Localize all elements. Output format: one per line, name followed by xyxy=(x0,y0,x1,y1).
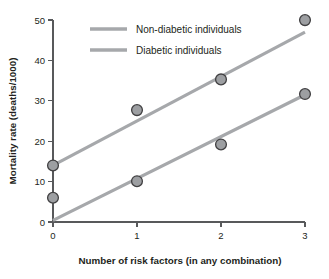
y-tick-label-30: 30 xyxy=(34,95,45,106)
x-tick-label-3: 3 xyxy=(302,230,307,241)
data-point-diabetic-2 xyxy=(216,139,227,150)
chart-legend: Non-diabetic individuals Diabetic indivi… xyxy=(90,24,242,56)
trend-line-diabetic xyxy=(53,95,305,221)
x-tick-label-1: 1 xyxy=(134,230,139,241)
legend-label-diabetic: Diabetic individuals xyxy=(136,45,222,56)
y-tick-label-0: 0 xyxy=(40,217,45,228)
y-axis-title: Mortality rate (deaths/1000) xyxy=(7,58,18,185)
y-tick-label-40: 40 xyxy=(34,55,45,66)
data-point-non-diabetic-3 xyxy=(300,15,311,26)
data-point-non-diabetic-0 xyxy=(48,160,59,171)
x-axis-title: Number of risk factors (in any combinati… xyxy=(78,255,281,266)
x-tick-label-0: 0 xyxy=(50,230,55,241)
data-point-non-diabetic-1 xyxy=(132,105,143,116)
data-point-non-diabetic-2 xyxy=(216,74,227,85)
chart-figure: 50 40 30 20 10 0 0 1 2 3 Number of risk … xyxy=(0,0,329,279)
data-point-diabetic-0 xyxy=(48,192,59,203)
legend-label-non-diabetic: Non-diabetic individuals xyxy=(136,24,242,35)
y-tick-label-50: 50 xyxy=(34,15,45,26)
data-point-diabetic-3 xyxy=(300,89,311,100)
data-point-diabetic-1 xyxy=(132,176,143,187)
y-tick-label-10: 10 xyxy=(34,176,45,187)
x-tick-label-2: 2 xyxy=(218,230,223,241)
y-tick-label-20: 20 xyxy=(34,136,45,147)
mortality-risk-factor-scatter-chart: 50 40 30 20 10 0 0 1 2 3 Number of risk … xyxy=(0,0,329,279)
